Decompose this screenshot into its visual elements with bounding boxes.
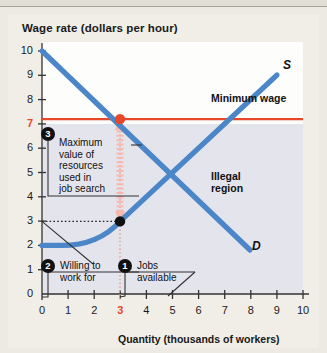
y-tick-6: 6: [13, 141, 33, 153]
x-tick-2: 2: [86, 304, 102, 316]
leader-2-stem: [42, 272, 48, 297]
wage-rate-minimum-wage-chart: Wage rate (dollars per hour) Quantity (t…: [0, 0, 327, 353]
y-tick-10: 10: [13, 44, 33, 56]
marker-supply-point: [115, 216, 125, 226]
y-tick-5: 5: [13, 166, 33, 178]
callout-text-3: Maximum value of resources used in job s…: [59, 137, 131, 195]
x-tick-5: 5: [165, 304, 181, 316]
callout-3-line-2: value of: [59, 149, 131, 161]
callout-badge-3: 3: [41, 127, 55, 141]
x-tick-7: 7: [217, 304, 233, 316]
demand-curve-label: D: [252, 239, 261, 253]
minimum-wage-label: Minimum wage: [211, 92, 291, 104]
x-tick-10: 10: [295, 304, 311, 316]
chart-vector-layer: [0, 0, 327, 353]
y-tick-1: 1: [13, 263, 33, 275]
marker-minimum-wage-point: [115, 114, 125, 124]
y-tick-3: 3: [13, 214, 33, 226]
callout-3-line-5: job search: [59, 183, 131, 195]
y-tick-4: 4: [13, 190, 33, 202]
callout-badge-1: 1: [118, 259, 132, 273]
x-tick-6: 6: [191, 304, 207, 316]
illegal-region-label: Illegal region: [211, 170, 275, 194]
y-tick-9: 9: [13, 68, 33, 80]
x-tick-3: 3: [112, 304, 128, 316]
x-tick-1: 1: [60, 304, 76, 316]
callout-3-line-4: used in: [59, 172, 131, 184]
y-tick-8: 8: [13, 93, 33, 105]
y-tick-7: 7: [13, 117, 33, 129]
x-tick-9: 9: [269, 304, 285, 316]
callout-text-1: Jobs available: [137, 260, 197, 283]
supply-curve-label: S: [283, 58, 291, 72]
callout-3-line-1: Maximum: [59, 137, 131, 149]
x-tick-4: 4: [138, 304, 154, 316]
x-tick-0: 0: [34, 304, 50, 316]
callout-3-line-3: resources: [59, 160, 131, 172]
callout-badge-2: 2: [41, 259, 55, 273]
callout-1-line-2: available: [137, 272, 197, 284]
callout-2-line-2: work for: [60, 272, 132, 284]
x-tick-8: 8: [243, 304, 259, 316]
y-tick-0: 0: [13, 287, 33, 299]
y-tick-2: 2: [13, 238, 33, 250]
callout-1-line-1: Jobs: [137, 260, 197, 272]
